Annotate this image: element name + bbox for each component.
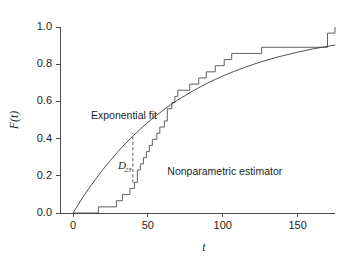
cdf-comparison-chart: 0.00.20.40.60.81.0 050100150 Exponential… [0, 0, 345, 270]
d23-statistic-subscript: 23 [125, 166, 133, 174]
nonparametric-estimator-label: Nonparametric estimator [167, 165, 282, 177]
exponential-fit-label: Exponential fit [91, 109, 157, 121]
y-tick-label: 0.2 [37, 169, 52, 181]
y-tick-label: 0.6 [37, 94, 52, 106]
y-tick-label: 0.4 [37, 132, 52, 144]
x-tick-label: 150 [288, 219, 306, 231]
x-tick-label: 0 [70, 219, 76, 231]
x-tick-label: 50 [142, 219, 154, 231]
y-tick-label: 0.8 [37, 57, 52, 69]
figure-container: 0.00.20.40.60.81.0 050100150 Exponential… [0, 0, 345, 270]
y-tick-label: 1.0 [37, 20, 52, 32]
y-tick-label: 0.0 [37, 206, 52, 218]
x-tick-label: 100 [214, 219, 232, 231]
y-axis-title: F(t) [7, 111, 21, 131]
